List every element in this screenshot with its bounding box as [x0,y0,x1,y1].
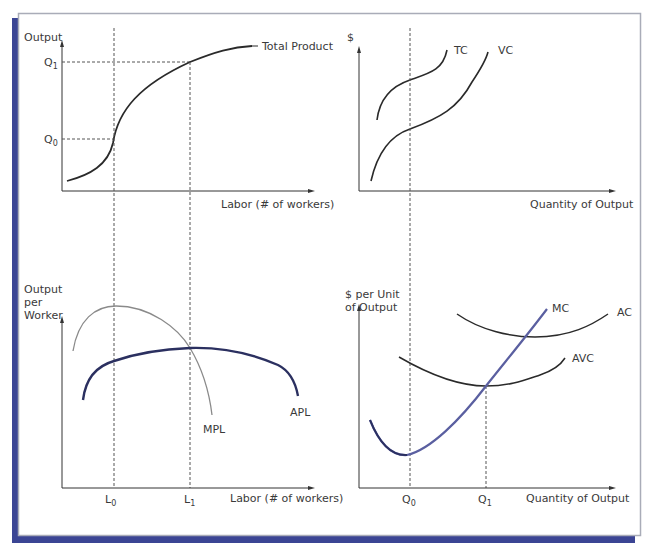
x-axis-label: Quantity of Output [526,492,630,505]
l1-label: L1 [184,493,195,508]
mpl-label: MPL [203,423,226,436]
vc-curve [371,52,488,181]
y-axis-label-line1: Output [24,283,63,296]
mc-label: MC [552,302,569,315]
ac-curve [457,314,608,337]
tc-curve [377,50,447,120]
tc-label: TC [453,44,468,57]
y-axis-arrow-icon [357,46,361,53]
total-product-curve [67,46,252,181]
x-axis-label: Labor (# of workers) [230,492,343,505]
avc-label: AVC [572,352,594,365]
per-unit-cost-panel: $ per Unit of Output Quantity of Output … [345,288,632,508]
avc-curve [399,357,565,386]
mc-curve-dark-start [370,420,407,455]
x-axis-arrow-icon [308,189,315,193]
total-product-panel: Output Labor (# of workers) Q1 Q0 Total … [24,31,334,211]
x-axis-label: Quantity of Output [530,198,634,211]
total-product-label: Total Product [261,40,334,53]
ac-label: AC [617,306,632,319]
q1-label: Q1 [478,493,492,508]
x-axis-label: Labor (# of workers) [221,198,334,211]
x-axis-arrow-icon [609,189,616,193]
y-axis-label-line2: of Output [345,301,398,314]
q0-label: Q0 [44,133,58,148]
vc-label: VC [498,44,514,57]
q1-label: Q1 [44,56,58,71]
production-cost-diagram: Output Labor (# of workers) Q1 Q0 Total … [0,0,654,548]
y-axis-label-line1: $ per Unit [345,288,400,301]
y-axis-label: $ [347,31,354,44]
y-axis-label: Output [24,31,63,44]
q0-label: Q0 [402,493,416,508]
apl-label: APL [290,406,311,419]
x-axis-arrow-icon [609,486,616,490]
y-axis-label-line3: Worker [24,309,63,322]
l0-label: L0 [105,493,116,508]
total-cost-panel: $ Quantity of Output TC VC [347,31,634,211]
mpl-curve [73,306,212,415]
frame-border [19,14,641,536]
x-axis-arrow-icon [308,486,315,490]
y-axis-label-line2: per [24,296,43,309]
per-worker-panel: Output per Worker Labor (# of workers) L… [24,283,343,508]
